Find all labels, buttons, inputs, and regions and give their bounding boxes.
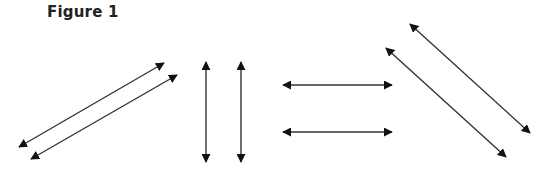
figure-diagram <box>0 0 547 173</box>
double-arrow-icon-diagonal-falling <box>386 48 506 157</box>
arrow-layer <box>19 24 530 162</box>
double-arrow-icon-diagonal-rising <box>19 63 164 147</box>
double-arrow-icon-diagonal-rising <box>31 75 177 159</box>
double-arrow-icon-diagonal-falling <box>410 24 530 133</box>
